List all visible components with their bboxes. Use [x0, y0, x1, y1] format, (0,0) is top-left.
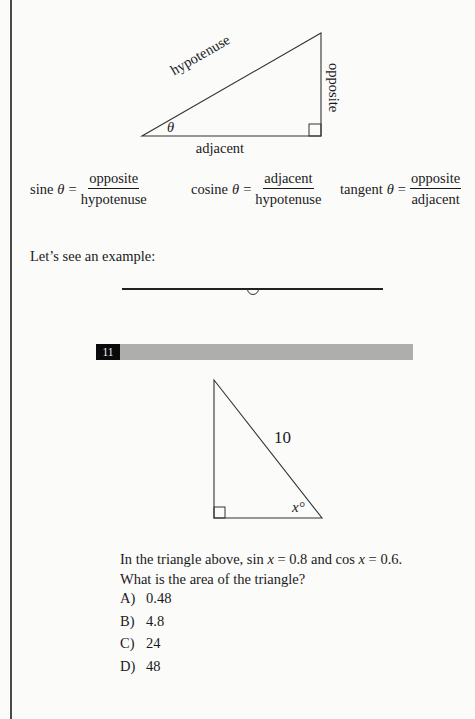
- choice-letter: C): [120, 635, 140, 658]
- denominator: hypotenuse: [81, 189, 147, 208]
- numerator: opposite: [88, 170, 139, 189]
- theta-angle-label: θ: [167, 119, 174, 136]
- opposite-label: opposite: [325, 63, 342, 112]
- choice-a[interactable]: A) 0.48: [120, 590, 171, 613]
- choice-value: 48: [146, 658, 161, 681]
- text-segment: = 0.6.: [365, 551, 402, 567]
- tangent-formula: tangent θ = opposite adjacent: [340, 170, 461, 208]
- intro-text: Let’s see an example:: [30, 248, 155, 265]
- equals-sign: =: [68, 181, 76, 198]
- question-line-2: What is the area of the triangle?: [120, 569, 402, 589]
- choice-value: 0.48: [146, 590, 171, 613]
- choice-letter: B): [120, 613, 140, 636]
- answer-choices: A) 0.48 B) 4.8 C) 24 D) 48: [120, 590, 171, 680]
- question-number: 11: [96, 344, 120, 360]
- theta-symbol: θ: [57, 181, 64, 198]
- denominator: adjacent: [411, 189, 459, 208]
- text-segment: In the triangle above, sin: [120, 551, 267, 567]
- fraction: opposite hypotenuse: [81, 170, 147, 208]
- question-header-bar: [96, 344, 413, 360]
- theta-symbol: θ: [232, 181, 239, 198]
- equals-sign: =: [243, 181, 251, 198]
- question-triangle-diagram: [0, 360, 475, 530]
- angle-x-label: x°: [292, 499, 305, 516]
- choice-value: 4.8: [146, 613, 164, 636]
- cosine-formula: cosine θ = adjacent hypotenuse: [191, 170, 321, 208]
- fraction: opposite adjacent: [410, 170, 461, 208]
- choice-c[interactable]: C) 24: [120, 635, 171, 658]
- trig-formulas: sine θ = opposite hypotenuse cosine θ = …: [0, 170, 475, 210]
- choice-letter: A): [120, 590, 140, 613]
- equals-sign: =: [398, 181, 406, 198]
- numerator: adjacent: [263, 170, 313, 189]
- formula-name: cosine: [191, 181, 228, 198]
- formula-name: tangent: [340, 181, 383, 198]
- question-text: In the triangle above, sin x = 0.8 and c…: [120, 549, 402, 589]
- divider-ornament-icon: [247, 283, 259, 295]
- question-line-1: In the triangle above, sin x = 0.8 and c…: [120, 549, 402, 569]
- choice-value: 24: [146, 635, 161, 658]
- formula-name: sine: [30, 181, 53, 198]
- choice-letter: D): [120, 658, 140, 681]
- choice-d[interactable]: D) 48: [120, 658, 171, 681]
- sine-formula: sine θ = opposite hypotenuse: [30, 170, 147, 208]
- denominator: hypotenuse: [255, 189, 321, 208]
- fraction: adjacent hypotenuse: [255, 170, 321, 208]
- hypotenuse-length-label: 10: [274, 428, 291, 448]
- adjacent-label: adjacent: [0, 140, 440, 157]
- theta-symbol: θ: [387, 181, 394, 198]
- numerator: opposite: [410, 170, 461, 189]
- choice-b[interactable]: B) 4.8: [120, 613, 171, 636]
- text-segment: = 0.8 and cos: [274, 551, 359, 567]
